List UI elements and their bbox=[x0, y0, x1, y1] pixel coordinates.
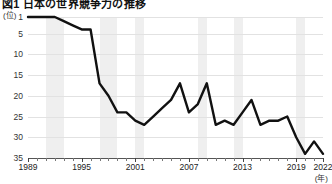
x-axis-tick bbox=[225, 158, 226, 161]
x-axis-tick-label: 2013 bbox=[233, 162, 252, 172]
x-axis-tick bbox=[64, 158, 65, 161]
x-axis-tick bbox=[162, 158, 163, 161]
y-axis-tick-label: 1 bbox=[5, 12, 23, 22]
x-axis-tick bbox=[207, 158, 208, 161]
x-axis-tick bbox=[216, 158, 217, 161]
x-axis-tick bbox=[91, 158, 92, 161]
x-axis-tick bbox=[108, 158, 109, 161]
x-axis-tick bbox=[287, 158, 288, 161]
y-axis-tick-label: 10 bbox=[5, 49, 23, 59]
x-axis-tick bbox=[100, 158, 101, 161]
y-axis-tick-label: 20 bbox=[5, 91, 23, 101]
x-axis-tick bbox=[144, 158, 145, 161]
x-axis-tick bbox=[269, 158, 270, 161]
x-axis-tick bbox=[251, 158, 252, 161]
x-axis-tick bbox=[37, 158, 38, 161]
x-axis-tick-label: 1989 bbox=[19, 162, 38, 172]
y-axis-tick-label: 15 bbox=[5, 70, 23, 80]
x-axis-tick bbox=[46, 158, 47, 161]
x-axis-tick bbox=[234, 158, 235, 161]
chart-title: 図1 日本の世界競争力の推移 bbox=[2, 0, 146, 11]
x-axis-tick bbox=[171, 158, 172, 161]
x-axis-tick bbox=[117, 158, 118, 161]
y-axis-tick-label: 5 bbox=[5, 29, 23, 39]
x-axis-tick-label: 2001 bbox=[126, 162, 145, 172]
y-axis-tick-label: 25 bbox=[5, 112, 23, 122]
x-axis-tick bbox=[180, 158, 181, 161]
x-axis-tick-label: 2007 bbox=[179, 162, 198, 172]
x-axis-tick bbox=[278, 158, 279, 161]
ranking-line-series bbox=[28, 17, 323, 158]
x-axis-tick bbox=[305, 158, 306, 161]
x-axis-tick bbox=[198, 158, 199, 161]
x-axis-tick bbox=[55, 158, 56, 161]
x-axis-tick bbox=[153, 158, 154, 161]
x-axis-tick-label: 1995 bbox=[72, 162, 91, 172]
x-axis-tick-label: 2019 bbox=[287, 162, 306, 172]
x-axis-tick-label: 2022 bbox=[314, 162, 332, 172]
x-axis-unit-label: (年) bbox=[315, 172, 328, 183]
x-axis-tick bbox=[73, 158, 74, 161]
plot-area bbox=[28, 17, 323, 158]
x-axis-tick bbox=[260, 158, 261, 161]
x-axis-tick bbox=[126, 158, 127, 161]
ranking-line bbox=[28, 17, 323, 154]
x-axis-tick bbox=[314, 158, 315, 161]
y-axis-tick-label: 30 bbox=[5, 132, 23, 142]
